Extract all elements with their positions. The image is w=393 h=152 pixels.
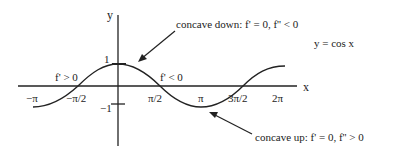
x-tick-label-minus-pi: −π <box>26 92 38 104</box>
y-tick-label-minus-one: −1 <box>100 102 112 114</box>
x-tick-label-minus-half-pi: −π/2 <box>66 92 86 104</box>
x-tick-label-three-half-pi: 3π/2 <box>228 92 248 104</box>
concave-up-arrow <box>209 112 252 134</box>
function-label: y = cos x <box>314 37 355 49</box>
cosine-diagram: y x 1 −1 −π −π/2 π/2 π 3π/2 2π f' > 0 f'… <box>0 0 393 152</box>
y-axis-label: y <box>107 8 113 22</box>
decreasing-label: f' < 0 <box>160 71 183 83</box>
concave-down-arrow <box>138 31 175 62</box>
x-tick-label-pi: π <box>198 92 204 104</box>
y-tick-label-one: 1 <box>104 53 110 65</box>
x-axis-label: x <box>303 80 309 94</box>
x-tick-label-two-pi: 2π <box>272 92 284 104</box>
concave-up-label: concave up: f' = 0, f'' > 0 <box>255 131 364 143</box>
x-tick-label-half-pi: π/2 <box>148 92 162 104</box>
concave-down-label: concave down: f' = 0, f'' < 0 <box>176 18 299 30</box>
increasing-label: f' > 0 <box>55 71 78 83</box>
